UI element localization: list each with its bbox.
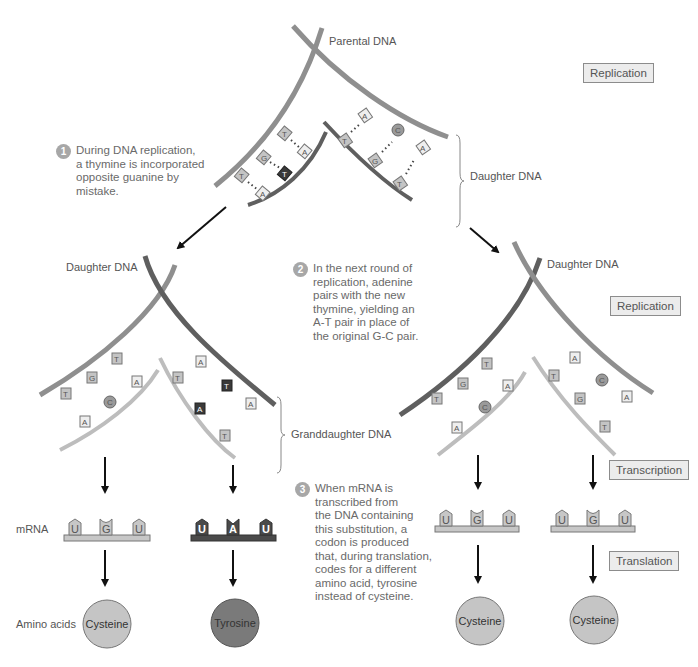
- svg-text:T: T: [175, 374, 180, 383]
- svg-text:U: U: [505, 514, 513, 526]
- svg-text:U: U: [71, 523, 79, 535]
- svg-text:A: A: [572, 354, 578, 363]
- label-daughter-dna-right: Daughter DNA: [547, 258, 619, 270]
- svg-text:Cysteine: Cysteine: [459, 615, 502, 627]
- svg-text:U: U: [198, 523, 206, 535]
- svg-text:A: A: [302, 148, 308, 157]
- mrna-1: U G U: [64, 519, 150, 541]
- label-mrna: mRNA: [16, 523, 49, 535]
- svg-text:A: A: [134, 378, 140, 387]
- svg-text:T: T: [282, 130, 287, 139]
- label-granddaughter-dna: Granddaughter DNA: [291, 428, 392, 440]
- label-daughter-dna-left: Daughter DNA: [66, 261, 138, 273]
- svg-text:G: G: [261, 154, 267, 163]
- svg-text:T: T: [397, 180, 402, 189]
- step-3-line: transcribed from: [315, 496, 432, 510]
- svg-text:U: U: [621, 514, 629, 526]
- step-2-line: replication, adenine: [313, 276, 418, 290]
- step-2-line: thymine, yielding an: [313, 303, 418, 317]
- base-pairs-mid-left2: T A T A T A: [173, 356, 256, 441]
- svg-text:T: T: [602, 423, 607, 432]
- granddaughter-brace: [277, 397, 285, 473]
- step-3-line: that, during translation,: [315, 550, 432, 564]
- base-pairs-top-left: T G T A T A: [234, 126, 312, 201]
- svg-text:A: A: [420, 144, 426, 153]
- svg-text:C: C: [482, 403, 488, 412]
- svg-text:Tyrosine: Tyrosine: [214, 617, 256, 629]
- svg-text:G: G: [372, 157, 378, 166]
- step-3-line: When mRNA is: [315, 482, 432, 496]
- transcription-box: Transcription: [609, 460, 689, 480]
- amino-acid-1: Cysteine: [83, 600, 131, 648]
- mrna-4: U G U: [551, 510, 635, 532]
- svg-text:A: A: [454, 424, 460, 433]
- svg-text:A: A: [198, 358, 204, 367]
- step-3-line: codes for a different: [315, 563, 432, 577]
- svg-text:G: G: [102, 523, 111, 535]
- replication-box-top: Replication: [583, 63, 654, 83]
- step-1-line: opposite guanine by: [76, 171, 204, 185]
- svg-text:U: U: [558, 514, 566, 526]
- step-2-line: pairs with the new: [313, 289, 418, 303]
- step-note-1: 1 During DNA replication, a thymine is i…: [76, 144, 204, 198]
- left-daughter-fork: T G T A C A T A T A T A: [40, 256, 285, 473]
- arrow-to-left-daughter: [178, 207, 226, 248]
- mrna-2-mutant: U A U: [191, 519, 276, 541]
- svg-text:Cysteine: Cysteine: [573, 614, 616, 626]
- step-3-line: the DNA containing: [315, 509, 432, 523]
- svg-text:C: C: [599, 376, 605, 385]
- label-parental-dna: Parental DNA: [329, 35, 397, 47]
- label-amino-acids: Amino acids: [16, 618, 76, 630]
- step-number-badge: 1: [56, 144, 71, 159]
- svg-text:A: A: [362, 112, 368, 121]
- svg-text:T: T: [551, 372, 556, 381]
- svg-text:A: A: [248, 400, 254, 409]
- step-2-line: In the next round of: [313, 262, 418, 276]
- svg-text:T: T: [224, 382, 229, 391]
- step-number-badge: 3: [295, 482, 310, 497]
- step-3-line: codon is produced: [315, 536, 432, 550]
- base-pairs-mid-left: T G T A C A: [61, 353, 142, 427]
- svg-text:T: T: [114, 355, 119, 364]
- label-daughter-dna-top: Daughter DNA: [470, 170, 542, 182]
- svg-text:A: A: [82, 418, 88, 427]
- step-1-line: mistake.: [76, 185, 204, 199]
- svg-text:G: G: [473, 514, 482, 526]
- right-daughter-fork: T G T A C A T G T A C A: [400, 242, 653, 455]
- arrow-to-right-daughter: [470, 228, 498, 252]
- svg-text:T: T: [484, 360, 489, 369]
- svg-text:A: A: [624, 393, 630, 402]
- svg-text:T: T: [282, 170, 287, 179]
- step-3-line: this substitution, a: [315, 523, 432, 537]
- svg-text:T: T: [63, 390, 68, 399]
- svg-text:T: T: [342, 137, 347, 146]
- base-pairs-mid-right2: T G T A C A: [549, 352, 632, 432]
- svg-text:C: C: [395, 126, 401, 135]
- svg-text:T: T: [434, 395, 439, 404]
- svg-text:G: G: [460, 380, 466, 389]
- step-note-2: 2 In the next round of replication, aden…: [313, 262, 418, 343]
- svg-text:A: A: [260, 190, 266, 199]
- step-3-line: instead of cysteine.: [315, 590, 432, 604]
- svg-text:U: U: [135, 523, 143, 535]
- amino-acid-3: Cysteine: [456, 597, 504, 645]
- svg-text:G: G: [89, 374, 95, 383]
- step-note-3: 3 When mRNA is transcribed from the DNA …: [315, 482, 432, 604]
- svg-text:G: G: [589, 514, 598, 526]
- step-3-line: amino acid, tyrosine: [315, 577, 432, 591]
- svg-text:Cysteine: Cysteine: [86, 618, 129, 630]
- svg-text:A: A: [229, 523, 237, 535]
- mrna-3: U G U: [435, 510, 519, 532]
- step-2-line: A-T pair in place of: [313, 316, 418, 330]
- svg-text:U: U: [262, 523, 270, 535]
- amino-acid-4: Cysteine: [570, 596, 618, 644]
- amino-acid-2-mutant: Tyrosine: [211, 599, 259, 647]
- parental-dna-fork: T G T A T A T G T A: [215, 26, 464, 227]
- svg-text:A: A: [505, 382, 511, 391]
- step-number-badge: 2: [293, 262, 308, 277]
- step-1-line: During DNA replication,: [76, 144, 204, 158]
- svg-text:C: C: [107, 398, 113, 407]
- daughter-dna-brace-top: [456, 135, 464, 227]
- replication-box-right: Replication: [610, 296, 681, 316]
- base-pairs-mid-right: T G T A C A: [432, 358, 513, 433]
